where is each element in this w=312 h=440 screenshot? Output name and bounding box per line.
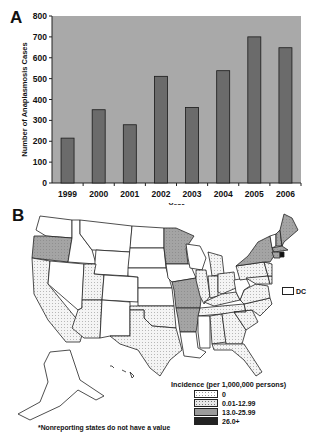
legend-swatch-0 bbox=[194, 390, 218, 398]
state-ak bbox=[18, 350, 104, 420]
state-ri bbox=[280, 252, 284, 257]
y-tick-label: 400 bbox=[33, 95, 47, 105]
state-nm bbox=[100, 300, 130, 338]
state-ms bbox=[198, 316, 210, 348]
y-tick-label: 100 bbox=[33, 157, 47, 167]
bar-1999 bbox=[61, 138, 74, 183]
legend-item-2: 13.0-25.99 bbox=[194, 408, 255, 416]
bar-2006 bbox=[279, 48, 292, 183]
us-choropleth-map bbox=[0, 200, 312, 440]
x-tick-label: 2006 bbox=[276, 189, 295, 199]
state-nd bbox=[130, 226, 164, 248]
y-tick-label: 500 bbox=[33, 74, 47, 84]
dc-label: DC bbox=[296, 288, 306, 295]
bar-2002 bbox=[154, 76, 167, 183]
legend-label-0: 0 bbox=[222, 391, 226, 398]
legend-label-3: 26.0+ bbox=[222, 418, 240, 425]
state-ar bbox=[176, 308, 200, 332]
x-tick-label: 1999 bbox=[58, 189, 77, 199]
y-axis-label: Number of Anaplasmosis Cases bbox=[20, 42, 29, 156]
x-tick-label: 2001 bbox=[120, 189, 139, 199]
x-tick-label: 2004 bbox=[214, 189, 233, 199]
state-ny bbox=[236, 236, 274, 266]
states bbox=[18, 214, 298, 420]
y-tick-label: 200 bbox=[33, 136, 47, 146]
x-tick-label: 2002 bbox=[151, 189, 170, 199]
state-or bbox=[32, 236, 72, 262]
state-mi bbox=[208, 252, 224, 276]
state-wy bbox=[94, 250, 130, 276]
legend-swatch-3 bbox=[194, 417, 218, 425]
x-tick-label: 2000 bbox=[89, 189, 108, 199]
legend-item-0: 0 bbox=[194, 390, 226, 398]
legend-swatch-2 bbox=[194, 408, 218, 416]
plot-area bbox=[52, 16, 301, 183]
y-tick-label: 0 bbox=[42, 178, 47, 188]
bar-2004 bbox=[217, 71, 230, 183]
y-tick-label: 800 bbox=[33, 11, 47, 21]
state-wa bbox=[36, 216, 72, 238]
state-hi bbox=[110, 366, 134, 378]
legend-label-1: 0.01-12.99 bbox=[222, 400, 255, 407]
legend-label-2: 13.0-25.99 bbox=[222, 409, 255, 416]
bar-2003 bbox=[186, 107, 199, 183]
state-oh bbox=[218, 272, 236, 294]
state-sd bbox=[128, 248, 166, 268]
legend-swatch-1 bbox=[194, 399, 218, 407]
dc-swatch bbox=[282, 287, 294, 295]
bar-2001 bbox=[123, 125, 136, 183]
y-tick-label: 600 bbox=[33, 53, 47, 63]
state-ks bbox=[138, 288, 174, 306]
x-tick-label: 2005 bbox=[245, 189, 264, 199]
state-fl bbox=[212, 344, 262, 376]
state-co bbox=[102, 275, 138, 302]
legend-title: Incidence (per 1,000,000 persons) bbox=[171, 380, 286, 389]
legend-item-1: 0.01-12.99 bbox=[194, 399, 255, 407]
state-me bbox=[280, 214, 298, 246]
state-in bbox=[208, 276, 218, 298]
bar-2000 bbox=[92, 110, 105, 183]
y-tick-label: 700 bbox=[33, 32, 47, 42]
legend-item-3: 26.0+ bbox=[194, 417, 240, 425]
x-tick-label: 2003 bbox=[183, 189, 202, 199]
footnote: *Nonreporting states do not have a value bbox=[38, 424, 170, 431]
dc-legend: DC bbox=[282, 287, 306, 295]
y-tick-label: 300 bbox=[33, 115, 47, 125]
bar-2005 bbox=[248, 37, 261, 183]
bar-chart: 0100200300400500600700800199920002001200… bbox=[0, 0, 312, 205]
